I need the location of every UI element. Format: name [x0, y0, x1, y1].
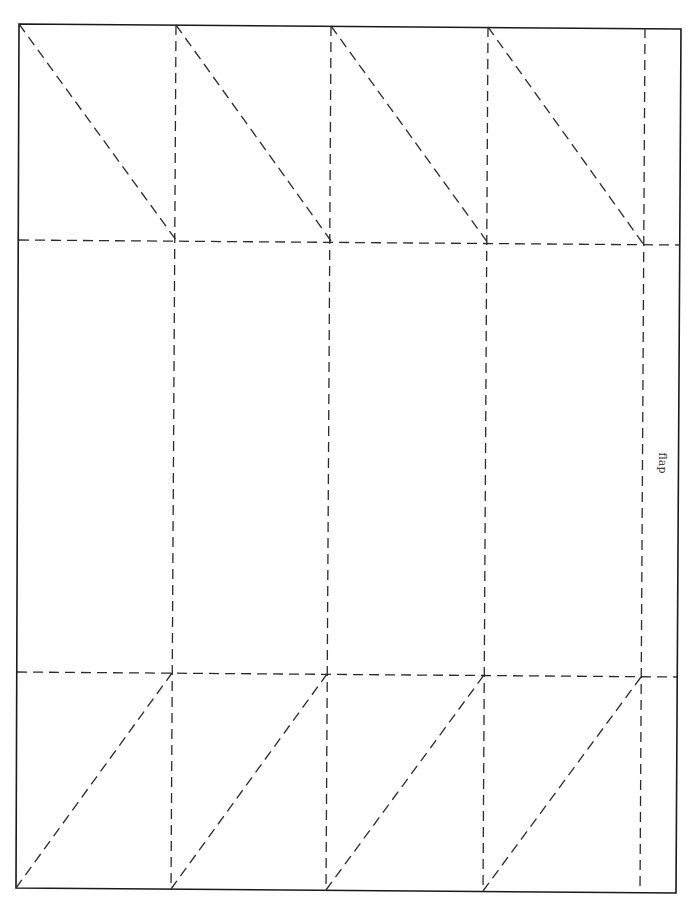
- bottom-diagonal-fold-3: [326, 675, 484, 890]
- box-template-diagram: flap: [0, 0, 694, 910]
- vertical-fold-lines: [171, 25, 645, 892]
- top-diagonal-fold-lines: [19, 24, 644, 245]
- bottom-diagonal-fold-lines: [16, 673, 641, 891]
- top-diagonal-fold-2: [176, 25, 331, 241]
- vertical-fold-3: [483, 27, 488, 891]
- bottom-diagonal-fold-2: [171, 674, 327, 889]
- horizontal-fold-1: [19, 240, 680, 245]
- top-diagonal-fold-4: [488, 27, 644, 245]
- vertical-fold-2: [326, 26, 331, 890]
- bottom-diagonal-fold-1: [16, 673, 172, 888]
- labels: flap: [656, 453, 669, 474]
- cut-outline: [16, 24, 681, 893]
- bottom-diagonal-fold-4: [483, 677, 641, 891]
- top-diagonal-fold-1: [19, 24, 176, 240]
- vertical-fold-1: [171, 25, 176, 889]
- horizontal-fold-lines: [17, 240, 680, 677]
- vertical-fold-4: [640, 28, 645, 892]
- horizontal-fold-2: [17, 672, 677, 677]
- flap-label: flap: [656, 453, 669, 474]
- top-diagonal-fold-3: [331, 26, 488, 243]
